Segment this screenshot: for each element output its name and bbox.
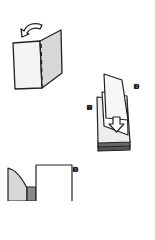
fold-letter-d: D — [133, 83, 140, 91]
curved-arrow-icon — [21, 24, 42, 37]
folded-sheet-icon — [13, 30, 62, 89]
booklet-cover-icon — [8, 165, 72, 201]
open-letter-n: N — [86, 104, 93, 112]
page-stack-icon — [97, 74, 130, 151]
fold-letter-d: D — [72, 166, 79, 174]
